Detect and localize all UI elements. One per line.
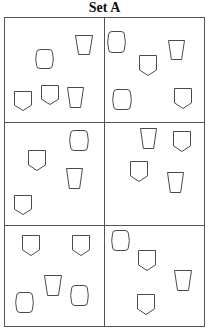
cup-icon bbox=[168, 173, 184, 193]
shield-icon bbox=[140, 56, 157, 76]
barrel-icon bbox=[113, 90, 132, 110]
barrel-icon bbox=[108, 32, 126, 53]
cup-icon bbox=[45, 276, 62, 296]
shield-icon bbox=[139, 251, 156, 271]
cup-icon bbox=[169, 41, 185, 60]
cell-6 bbox=[112, 231, 192, 315]
shield-icon bbox=[15, 92, 32, 111]
cell-1 bbox=[15, 36, 93, 111]
shield-icon bbox=[23, 236, 40, 256]
cell-2 bbox=[108, 32, 192, 110]
cell-4 bbox=[131, 129, 191, 193]
diagram-canvas bbox=[0, 0, 209, 336]
shield-icon bbox=[131, 162, 148, 182]
cup-icon bbox=[76, 36, 93, 55]
cup-icon bbox=[141, 129, 157, 149]
cup-icon bbox=[175, 271, 192, 291]
cell-3 bbox=[15, 131, 89, 215]
cup-icon bbox=[68, 88, 84, 108]
barrel-icon bbox=[71, 286, 89, 306]
shapes-layer bbox=[15, 32, 192, 315]
barrel-icon bbox=[36, 50, 54, 69]
shield-icon bbox=[174, 132, 191, 152]
cup-icon bbox=[67, 169, 83, 189]
barrel-icon bbox=[16, 293, 34, 313]
shield-icon bbox=[15, 196, 32, 215]
shield-icon bbox=[138, 295, 155, 315]
shield-icon bbox=[73, 236, 90, 256]
barrel-icon bbox=[112, 231, 130, 251]
barrel-icon bbox=[70, 131, 89, 151]
shield-icon bbox=[29, 151, 46, 171]
cell-5 bbox=[16, 236, 90, 313]
shield-icon bbox=[42, 86, 59, 105]
shield-icon bbox=[175, 89, 192, 109]
